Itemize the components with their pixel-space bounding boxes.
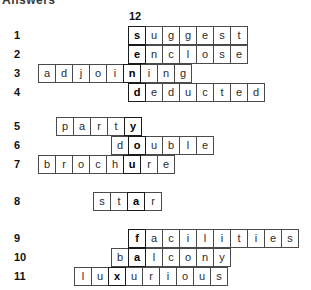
letter-cell-highlighted[interactable]: x bbox=[108, 267, 126, 286]
row-number-label: 5 bbox=[14, 119, 30, 133]
letter-cell[interactable]: y bbox=[213, 248, 231, 267]
letter-cell[interactable]: l bbox=[196, 229, 214, 248]
letter-cell[interactable]: i bbox=[179, 229, 197, 248]
letter-cell-highlighted[interactable]: a bbox=[128, 248, 146, 267]
answer-word: brochure bbox=[38, 155, 175, 174]
answer-row: 11luxurious bbox=[0, 267, 311, 286]
answer-word: party bbox=[56, 117, 142, 136]
letter-cell[interactable]: e bbox=[157, 155, 175, 174]
letter-cell[interactable]: s bbox=[93, 192, 111, 211]
letter-cell[interactable]: c bbox=[162, 248, 180, 267]
row-number-label: 6 bbox=[14, 138, 30, 152]
letter-cell[interactable]: e bbox=[264, 229, 282, 248]
answer-row: 7brochure bbox=[0, 155, 311, 174]
letter-cell[interactable]: t bbox=[107, 117, 125, 136]
letter-cell-highlighted[interactable]: n bbox=[123, 64, 141, 83]
letter-cell[interactable]: e bbox=[145, 83, 163, 102]
answer-row: 10balcony bbox=[0, 248, 311, 267]
letter-cell[interactable]: e bbox=[196, 26, 214, 45]
letter-cell[interactable]: b bbox=[38, 155, 56, 174]
letter-cell[interactable]: g bbox=[174, 64, 192, 83]
letter-cell[interactable]: h bbox=[106, 155, 124, 174]
letter-cell[interactable]: n bbox=[145, 45, 163, 64]
letter-cell[interactable]: e bbox=[230, 45, 248, 64]
letter-cell[interactable]: t bbox=[110, 192, 128, 211]
answer-row: 2enclose bbox=[0, 45, 311, 64]
letter-cell[interactable]: d bbox=[162, 83, 180, 102]
letter-cell[interactable]: u bbox=[125, 267, 143, 286]
letter-cell[interactable]: b bbox=[162, 136, 180, 155]
letter-cell[interactable]: j bbox=[72, 64, 90, 83]
letter-cell[interactable]: o bbox=[72, 155, 90, 174]
letter-cell-highlighted[interactable]: e bbox=[128, 45, 146, 64]
letter-cell[interactable]: d bbox=[111, 136, 129, 155]
letter-cell[interactable]: n bbox=[157, 64, 175, 83]
letter-cell[interactable]: l bbox=[145, 248, 163, 267]
answer-word: suggest bbox=[128, 26, 248, 45]
letter-cell[interactable]: l bbox=[179, 45, 197, 64]
row-number-label: 7 bbox=[14, 157, 30, 171]
letter-cell[interactable]: n bbox=[196, 248, 214, 267]
letter-cell[interactable]: c bbox=[89, 155, 107, 174]
letter-cell[interactable]: u bbox=[145, 26, 163, 45]
letter-cell[interactable]: d bbox=[55, 64, 73, 83]
answer-row: 6double bbox=[0, 136, 311, 155]
letter-cell[interactable]: i bbox=[140, 64, 158, 83]
letter-cell[interactable]: o bbox=[179, 248, 197, 267]
letter-cell-highlighted[interactable]: a bbox=[127, 192, 145, 211]
letter-cell[interactable]: d bbox=[247, 83, 265, 102]
letter-cell[interactable]: o bbox=[89, 64, 107, 83]
letter-cell[interactable]: u bbox=[179, 83, 197, 102]
answer-row: 5party bbox=[0, 117, 311, 136]
letter-cell[interactable]: i bbox=[213, 229, 231, 248]
letter-cell[interactable]: e bbox=[196, 136, 214, 155]
letter-cell-highlighted[interactable]: d bbox=[128, 83, 146, 102]
letter-cell[interactable]: i bbox=[159, 267, 177, 286]
letter-cell[interactable]: s bbox=[281, 229, 299, 248]
answer-word: enclose bbox=[128, 45, 248, 64]
letter-cell[interactable]: r bbox=[55, 155, 73, 174]
letter-cell[interactable]: o bbox=[176, 267, 194, 286]
answer-word: luxurious bbox=[74, 267, 228, 286]
letter-cell[interactable]: c bbox=[162, 229, 180, 248]
letter-cell-highlighted[interactable]: s bbox=[128, 26, 146, 45]
letter-cell[interactable]: u bbox=[145, 136, 163, 155]
letter-cell[interactable]: i bbox=[106, 64, 124, 83]
answer-word: star bbox=[93, 192, 162, 211]
letter-cell[interactable]: r bbox=[142, 267, 160, 286]
letter-cell[interactable]: a bbox=[38, 64, 56, 83]
letter-cell[interactable]: i bbox=[247, 229, 265, 248]
letter-cell-highlighted[interactable]: y bbox=[124, 117, 142, 136]
letter-cell[interactable]: a bbox=[145, 229, 163, 248]
answer-row: 9facilities bbox=[0, 229, 311, 248]
letter-cell[interactable]: s bbox=[210, 267, 228, 286]
letter-cell[interactable]: c bbox=[162, 45, 180, 64]
letter-cell[interactable]: p bbox=[56, 117, 74, 136]
letter-cell[interactable]: u bbox=[193, 267, 211, 286]
letter-cell[interactable]: g bbox=[162, 26, 180, 45]
letter-cell[interactable]: s bbox=[213, 45, 231, 64]
letter-cell[interactable]: e bbox=[230, 83, 248, 102]
letter-cell[interactable]: b bbox=[111, 248, 129, 267]
letter-cell[interactable]: t bbox=[230, 229, 248, 248]
answer-row: 3adjoining bbox=[0, 64, 311, 83]
column-number-header: 12 bbox=[129, 10, 141, 22]
letter-cell-highlighted[interactable]: u bbox=[123, 155, 141, 174]
letter-cell-highlighted[interactable]: f bbox=[128, 229, 146, 248]
letter-cell[interactable]: g bbox=[179, 26, 197, 45]
letter-cell-highlighted[interactable]: o bbox=[128, 136, 146, 155]
letter-cell[interactable]: r bbox=[144, 192, 162, 211]
letter-cell[interactable]: a bbox=[73, 117, 91, 136]
letter-cell[interactable]: o bbox=[196, 45, 214, 64]
letter-cell[interactable]: l bbox=[179, 136, 197, 155]
letter-cell[interactable]: t bbox=[213, 83, 231, 102]
letter-cell[interactable]: s bbox=[213, 26, 231, 45]
letter-cell[interactable]: u bbox=[91, 267, 109, 286]
letter-cell[interactable]: r bbox=[90, 117, 108, 136]
answer-word: adjoining bbox=[38, 64, 192, 83]
letter-cell[interactable]: c bbox=[196, 83, 214, 102]
letter-cell[interactable]: t bbox=[230, 26, 248, 45]
letter-cell[interactable]: l bbox=[74, 267, 92, 286]
letter-cell[interactable]: r bbox=[140, 155, 158, 174]
answer-word: balcony bbox=[111, 248, 231, 267]
